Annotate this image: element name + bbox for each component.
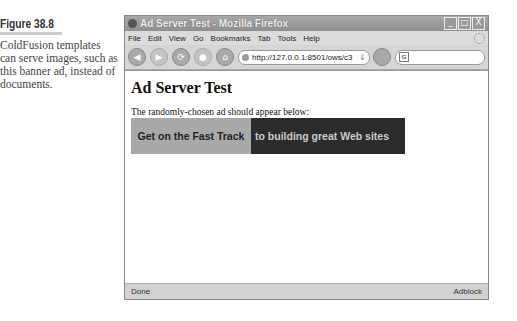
reload-button[interactable]: ⟳	[172, 48, 190, 66]
window-title: Ad Server Test - Mozilla Firefox	[140, 18, 443, 29]
menu-go[interactable]: Go	[193, 34, 204, 43]
forward-button[interactable]: ▶	[150, 48, 168, 66]
home-button[interactable]: ⌂	[216, 48, 234, 66]
firefox-icon	[128, 19, 137, 28]
browser-window: Ad Server Test - Mozilla Firefox _ □ X F…	[124, 15, 489, 300]
search-bar[interactable]: G	[395, 50, 485, 65]
maximize-button[interactable]: □	[458, 17, 471, 30]
figure-label: Figure 38.8	[0, 17, 62, 35]
figure-text: ColdFusion templates can serve images, s…	[0, 39, 118, 91]
navigation-toolbar: ◀ ▶ ⟳ ● ⌂ http://127.0.0.1:8501/ows/c3 ⇓…	[125, 45, 488, 70]
banner-right-text: to building great Web sites	[251, 118, 405, 154]
banner-ad[interactable]: Get on the Fast Track to building great …	[131, 118, 405, 154]
throbber-icon	[474, 33, 485, 44]
menu-bookmarks[interactable]: Bookmarks	[211, 34, 251, 43]
menu-tools[interactable]: Tools	[277, 34, 296, 43]
menu-edit[interactable]: Edit	[148, 34, 162, 43]
page-content: Ad Server Test The randomly-chosen ad sh…	[125, 70, 488, 285]
title-bar[interactable]: Ad Server Test - Mozilla Firefox _ □ X	[125, 16, 488, 31]
back-button[interactable]: ◀	[128, 48, 146, 66]
menu-view[interactable]: View	[169, 34, 186, 43]
menu-tab[interactable]: Tab	[258, 34, 271, 43]
menu-bar: File Edit View Go Bookmarks Tab Tools He…	[125, 31, 488, 45]
menu-file[interactable]: File	[128, 34, 141, 43]
figure-caption: Figure 38.8 ColdFusion templates can ser…	[0, 14, 118, 91]
stop-button[interactable]: ●	[194, 48, 212, 66]
banner-left-text: Get on the Fast Track	[131, 118, 251, 154]
site-icon	[242, 54, 249, 61]
adblock-button[interactable]: Adblock	[454, 287, 482, 296]
page-heading: Ad Server Test	[131, 79, 488, 97]
google-icon[interactable]: G	[399, 52, 409, 62]
url-text[interactable]: http://127.0.0.1:8501/ows/c3	[252, 53, 353, 62]
page-text: The randomly-chosen ad should appear bel…	[131, 107, 488, 117]
status-bar: Done Adblock	[125, 283, 488, 299]
minimize-button[interactable]: _	[444, 17, 457, 30]
close-button[interactable]: X	[472, 17, 485, 30]
go-button[interactable]	[373, 48, 391, 66]
url-bar[interactable]: http://127.0.0.1:8501/ows/c3 ⇓	[238, 50, 370, 65]
menu-help[interactable]: Help	[303, 34, 319, 43]
go-icon[interactable]: ⇓	[359, 53, 366, 62]
status-text: Done	[131, 287, 150, 296]
